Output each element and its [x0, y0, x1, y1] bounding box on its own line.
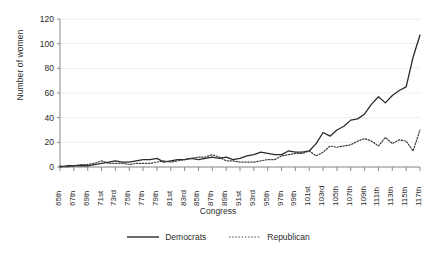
gridlines [60, 19, 420, 167]
x-tick-label: 85th [192, 190, 201, 206]
x-axis-ticks: 65th67th69th71st73rd75th77th79th81st83rd… [0, 170, 436, 206]
x-tick-label: 71st [96, 191, 105, 206]
x-tick-label: 97th [276, 190, 285, 206]
x-tick-label: 95th [262, 190, 271, 206]
x-tick-label: 79th [151, 190, 160, 206]
x-tick-label: 93rd [248, 190, 257, 206]
x-tick-label: 113th [386, 187, 395, 206]
x-tick-label: 117th [414, 187, 423, 206]
x-tick-label: 99th [289, 190, 298, 206]
x-axis-title: Congress [0, 206, 436, 216]
y-tick-label: 120 [20, 14, 54, 24]
legend-item-republican[interactable]: Republican [228, 232, 310, 242]
y-tick-label: 100 [20, 39, 54, 49]
chart-container: Number of women 020406080100120 65th67th… [0, 0, 436, 255]
y-axis-ticks: 020406080100120 [20, 0, 54, 255]
legend-label: Republican [267, 232, 310, 242]
x-tick-label: 67th [68, 190, 77, 206]
x-tick-label: 81st [165, 191, 174, 206]
x-tick-label: 83rd [179, 190, 188, 206]
legend-swatch-dotted-icon [228, 233, 262, 241]
x-tick-label: 65th [54, 190, 63, 206]
x-tick-label: 103rd [317, 186, 326, 206]
legend-item-democrats[interactable]: Democrats [126, 232, 206, 242]
x-tick-label: 107th [345, 186, 354, 206]
series-line-democrats [60, 35, 420, 167]
y-tick-label: 60 [20, 88, 54, 98]
y-tick-label: 40 [20, 113, 54, 123]
series-lines [60, 35, 420, 167]
y-tick-label: 80 [20, 63, 54, 73]
x-tick-label: 75th [123, 190, 132, 206]
x-tick-label: 111th [372, 187, 381, 206]
x-tick-label: 69th [82, 190, 91, 206]
x-tick-label: 87th [206, 190, 215, 206]
plot-area [0, 0, 436, 255]
legend-swatch-solid-icon [126, 233, 160, 241]
x-tick-label: 115th [400, 187, 409, 206]
y-tick-label: 20 [20, 137, 54, 147]
legend-label: Democrats [165, 232, 206, 242]
x-tick-label: 91st [234, 191, 243, 206]
x-tick-label: 89th [220, 190, 229, 206]
x-tick-label: 101st [303, 186, 312, 206]
x-tick-label: 109th [359, 186, 368, 206]
x-tick-label: 73rd [109, 190, 118, 206]
x-tick-label: 105th [331, 186, 340, 206]
x-tick-label: 77th [137, 190, 146, 206]
chart-legend: DemocratsRepublican [0, 232, 436, 242]
